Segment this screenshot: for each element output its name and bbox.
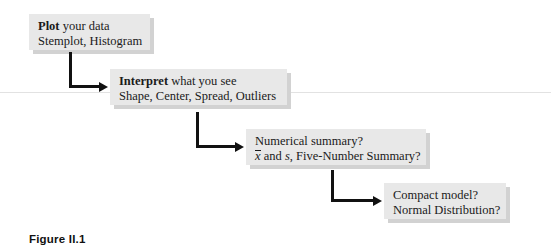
flow-box-numerical-summary-heading: Numerical summary? (255, 134, 417, 149)
flow-box-compact-model-detail: Normal Distribution? (393, 203, 497, 218)
flow-box-compact-model-heading: Compact model? (393, 188, 497, 203)
arrow-stem (69, 52, 72, 88)
flow-box-interpret-heading-rest: what you see (168, 74, 236, 88)
flow-box-plot: Plot your data Stemplot, Histogram (29, 14, 150, 50)
arrow-arm (196, 145, 238, 148)
flow-box-plot-heading: Plot your data (38, 19, 141, 34)
arrow-head-icon (99, 82, 108, 92)
flow-box-plot-keyword: Plot (38, 19, 60, 33)
figure-canvas: Plot your data Stemplot, Histogram Inter… (0, 0, 551, 252)
flow-box-interpret-heading: Interpret what you see (119, 74, 278, 89)
arrow-head-icon (373, 196, 382, 206)
x-bar-symbol: x (255, 149, 261, 164)
flow-box-plot-detail: Stemplot, Histogram (38, 34, 141, 49)
flow-box-interpret-keyword: Interpret (119, 74, 168, 88)
flow-box-numerical-summary: Numerical summary? x and s, Five-Number … (246, 129, 426, 165)
flow-box-interpret-detail: Shape, Center, Spread, Outliers (119, 89, 278, 104)
arrow-stem (196, 112, 199, 148)
flow-box-interpret: Interpret what you see Shape, Center, Sp… (110, 69, 287, 105)
flow-box-numerical-summary-detail: x and s, Five-Number Summary? (255, 149, 417, 164)
arrow-arm (331, 199, 376, 202)
flow-box-numerical-summary-conjunction: and (261, 149, 285, 163)
arrow-head-icon (235, 142, 244, 152)
arrow-arm (69, 85, 102, 88)
flow-box-compact-model: Compact model? Normal Distribution? (384, 183, 506, 219)
arrow-stem (331, 170, 334, 202)
figure-caption: Figure II.1 (29, 233, 86, 245)
flow-box-plot-heading-rest: your data (60, 19, 110, 33)
flow-box-numerical-summary-detail-rest: , Five-Number Summary? (290, 149, 421, 163)
